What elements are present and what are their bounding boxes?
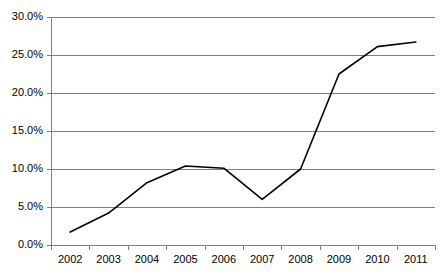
y-axis-tick-label: 0.0% [18,238,43,250]
x-axis-tick-label: 2010 [365,253,389,265]
chart-canvas: 0.0%5.0%10.0%15.0%20.0%25.0%30.0% 200220… [0,0,448,277]
y-axis-tick-label: 25.0% [12,48,43,60]
y-axis-tick-label: 15.0% [12,124,43,136]
y-axis-tick-label: 30.0% [12,10,43,22]
x-axis-tick-label: 2007 [250,253,274,265]
x-axis-tick-label: 2011 [404,253,428,265]
x-axis-tick-label: 2004 [135,253,159,265]
x-axis-tick-label: 2008 [288,253,312,265]
x-axis-tick-label: 2009 [327,253,351,265]
x-axis-tick-labels: 2002200320042005200620072008200920102011 [58,253,428,265]
y-axis-tick-marks [47,18,51,246]
x-axis-tick-label: 2005 [173,253,197,265]
line-chart: 0.0%5.0%10.0%15.0%20.0%25.0%30.0% 200220… [0,0,448,277]
y-axis-tick-label: 5.0% [18,200,43,212]
y-axis-tick-label: 20.0% [12,86,43,98]
x-axis-tick-label: 2002 [58,253,82,265]
x-axis-tick-label: 2003 [96,253,120,265]
y-axis-tick-label: 10.0% [12,162,43,174]
y-axis-tick-labels: 0.0%5.0%10.0%15.0%20.0%25.0%30.0% [12,10,43,250]
x-axis-tick-label: 2006 [212,253,236,265]
